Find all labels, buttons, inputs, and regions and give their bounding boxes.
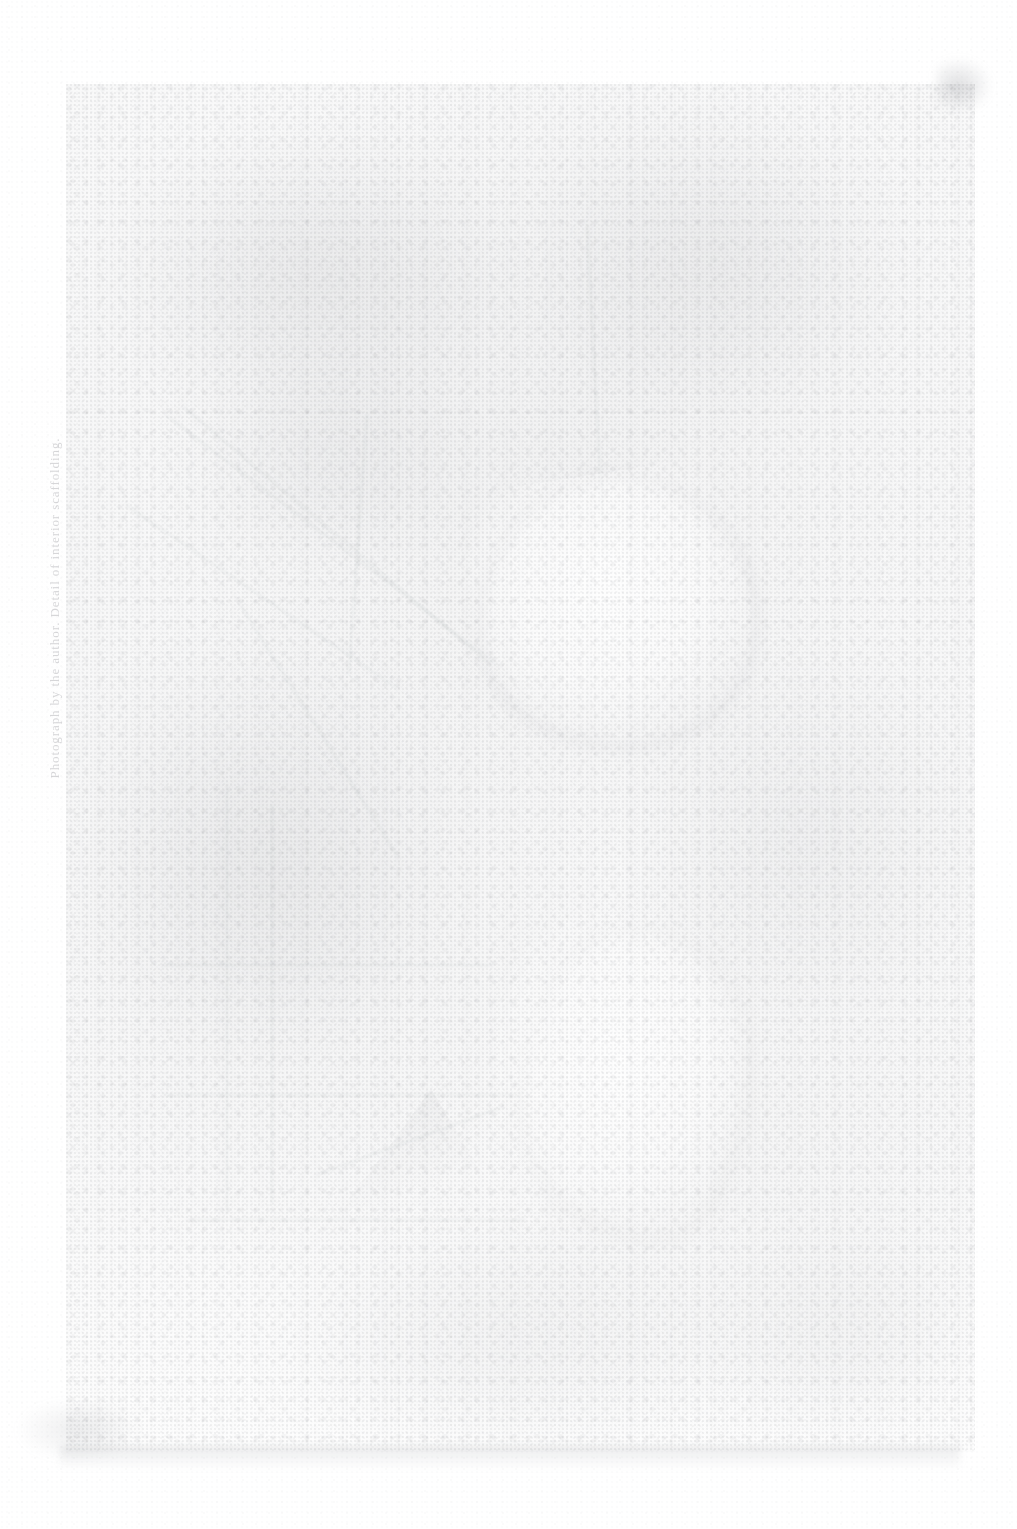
top-right-smudge bbox=[936, 58, 992, 108]
printed-halftone-plate bbox=[66, 84, 975, 1452]
bottom-edge-band bbox=[60, 1446, 960, 1472]
vertical-scan-streaks bbox=[66, 84, 975, 1452]
rotated-margin-caption: Photograph by the author. Detail of inte… bbox=[47, 308, 63, 908]
scanned-sheet: Photograph by the author. Detail of inte… bbox=[0, 0, 1017, 1529]
